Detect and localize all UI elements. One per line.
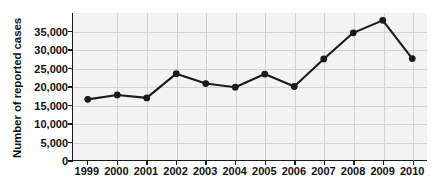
y-axis-tick-mark (68, 31, 73, 32)
y-axis-tick-label-group: 05,00010,00015,00020,00025,00030,00035,0… (24, 0, 68, 189)
data-point-marker (143, 95, 150, 102)
series-marker-group (84, 17, 415, 103)
data-point-marker (173, 70, 180, 77)
y-axis-tick-label: 15,000 (24, 100, 68, 112)
y-axis-tick-mark (68, 49, 73, 50)
y-axis-tick-label: 5,000 (24, 137, 68, 149)
y-axis-tick-mark (68, 86, 73, 87)
y-axis-tick-mark (68, 123, 73, 124)
y-axis-tick-mark (68, 160, 73, 161)
data-point-marker (84, 96, 91, 103)
y-axis-tick-label: 35,000 (24, 26, 68, 38)
y-axis-tick-mark (68, 68, 73, 69)
data-point-marker (261, 71, 268, 78)
data-point-marker (409, 55, 416, 62)
data-point-marker (320, 56, 327, 63)
data-series-layer (73, 13, 427, 160)
x-axis-tick-label: 2010 (389, 165, 435, 177)
data-point-marker (350, 29, 357, 36)
data-point-marker (232, 84, 239, 91)
y-axis-tick-label: 10,000 (24, 118, 68, 130)
data-point-marker (202, 80, 209, 87)
series-line-reported-cases (88, 20, 413, 99)
line-chart-figure: Number of reported cases 05,00010,00015,… (0, 0, 439, 189)
y-axis-tick-label: 30,000 (24, 44, 68, 56)
data-point-marker (379, 17, 386, 24)
y-axis-tick-label: 0 (24, 155, 68, 167)
x-axis-tick-label-group: 1999200020012002200320042005200620072008… (72, 165, 427, 185)
plot-area (72, 13, 427, 161)
data-point-marker (291, 83, 298, 90)
y-axis-tick-mark (68, 105, 73, 106)
y-axis-tick-label: 25,000 (24, 63, 68, 75)
y-axis-tick-mark (68, 142, 73, 143)
y-axis-tick-label: 20,000 (24, 81, 68, 93)
data-point-marker (114, 92, 121, 99)
